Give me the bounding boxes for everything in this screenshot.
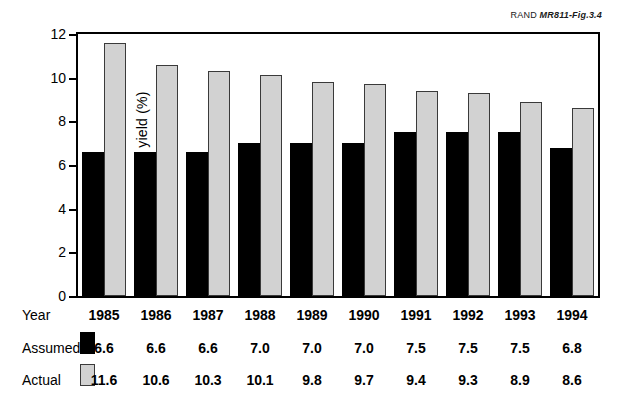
cell-actual-1994: 8.6 — [562, 372, 581, 388]
y-axis-tick-label: 6 — [32, 158, 66, 172]
cell-assumed-1986: 6.6 — [146, 340, 165, 356]
cell-year-1985: 1985 — [88, 307, 119, 323]
y-axis-tick-mark — [69, 78, 78, 80]
bar-actual-1986 — [156, 65, 178, 296]
bar-actual-1992 — [468, 93, 490, 296]
cell-assumed-1994: 6.8 — [562, 340, 581, 356]
bar-assumed-1990 — [342, 143, 364, 296]
bar-assumed-1987 — [186, 152, 208, 296]
y-axis-tick-label: 8 — [32, 114, 66, 128]
cell-assumed-1985: 6.6 — [94, 340, 113, 356]
cell-year-1993: 1993 — [504, 307, 535, 323]
cell-year-1989: 1989 — [296, 307, 327, 323]
cell-assumed-1988: 7.0 — [250, 340, 269, 356]
bar-assumed-1991 — [394, 132, 416, 296]
bar-actual-1994 — [572, 108, 594, 296]
figure-container: RAND MR811-Fig.3.4 Fund yield (%) 024681… — [0, 0, 628, 400]
cell-year-1994: 1994 — [556, 307, 587, 323]
cell-year-1987: 1987 — [192, 307, 223, 323]
cell-actual-1990: 9.7 — [354, 372, 373, 388]
cell-year-1986: 1986 — [140, 307, 171, 323]
bar-assumed-1986 — [134, 152, 156, 296]
cell-year-1992: 1992 — [452, 307, 483, 323]
bar-actual-1988 — [260, 75, 282, 296]
bar-assumed-1988 — [238, 143, 260, 296]
y-axis-tick-label: 4 — [32, 202, 66, 216]
bar-assumed-1989 — [290, 143, 312, 296]
y-axis-tick-mark — [69, 296, 78, 298]
row-label-actual: Actual — [22, 372, 61, 388]
y-axis-tick-label: 10 — [32, 71, 66, 85]
y-axis-tick-mark — [69, 121, 78, 123]
cell-year-1990: 1990 — [348, 307, 379, 323]
bar-actual-1987 — [208, 71, 230, 296]
cell-actual-1988: 10.1 — [246, 372, 273, 388]
cell-actual-1986: 10.6 — [142, 372, 169, 388]
y-axis-tick-mark — [69, 165, 78, 167]
bar-actual-1993 — [520, 102, 542, 296]
legend-swatch-assumed — [80, 332, 95, 354]
plot-area: 024681012 — [78, 34, 598, 296]
bar-actual-1991 — [416, 91, 438, 296]
y-axis-tick-mark — [69, 209, 78, 211]
bar-assumed-1992 — [446, 132, 468, 296]
cell-year-1988: 1988 — [244, 307, 275, 323]
y-axis-tick-mark — [69, 34, 78, 36]
cell-assumed-1987: 6.6 — [198, 340, 217, 356]
cell-assumed-1989: 7.0 — [302, 340, 321, 356]
cell-actual-1989: 9.8 — [302, 372, 321, 388]
bar-assumed-1985 — [82, 152, 104, 296]
cell-assumed-1991: 7.5 — [406, 340, 425, 356]
bar-actual-1985 — [104, 43, 126, 296]
y-axis-tick-mark — [69, 252, 78, 254]
plot-frame: Fund yield (%) 024681012 — [76, 32, 600, 298]
cell-actual-1985: 11.6 — [91, 372, 117, 388]
cell-assumed-1993: 7.5 — [510, 340, 529, 356]
bar-actual-1989 — [312, 82, 334, 296]
cell-actual-1991: 9.4 — [406, 372, 425, 388]
source-label-id: MR811-Fig.3.4 — [540, 10, 602, 20]
cell-year-1991: 1991 — [400, 307, 431, 323]
y-axis-tick-label: 12 — [32, 27, 66, 41]
cell-assumed-1992: 7.5 — [458, 340, 477, 356]
source-label-prefix: RAND — [511, 10, 540, 20]
row-label-assumed: Assumed — [22, 340, 80, 356]
data-table: Year Assumed Actual 19856.611.619866.610… — [0, 300, 628, 400]
bar-assumed-1993 — [498, 132, 520, 296]
cell-actual-1992: 9.3 — [458, 372, 477, 388]
cell-assumed-1990: 7.0 — [354, 340, 373, 356]
cell-actual-1987: 10.3 — [194, 372, 221, 388]
source-label: RAND MR811-Fig.3.4 — [511, 10, 602, 20]
bar-actual-1990 — [364, 84, 386, 296]
row-label-year: Year — [22, 307, 50, 323]
y-axis-tick-label: 2 — [32, 245, 66, 259]
bar-assumed-1994 — [550, 148, 572, 296]
cell-actual-1993: 8.9 — [510, 372, 529, 388]
